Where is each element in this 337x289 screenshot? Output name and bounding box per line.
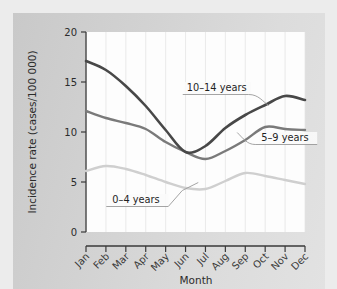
chart-svg: 05101520 JanFebMarAprMayJunJulAugSepOctN… [0, 0, 337, 289]
callout-label-5-9 years: 5–9 years [261, 132, 308, 143]
x-tick-label: Apr [131, 250, 152, 271]
x-tick-label: Jan [72, 251, 91, 270]
x-axis-ticks [86, 246, 305, 252]
x-tick-label: Aug [209, 251, 231, 273]
x-tick-label: Oct [251, 251, 271, 271]
y-tick-label: 5 [71, 177, 77, 188]
y-tick-label: 0 [71, 227, 77, 238]
x-axis-title: Month [180, 274, 213, 286]
x-tick-label: Jul [194, 251, 211, 268]
callout-label-10-14 years: 10–14 years [187, 82, 247, 93]
x-tick-label: Mar [110, 250, 132, 272]
y-axis-title: Incidence rate (cases/100 000) [26, 50, 38, 213]
y-tick-label: 20 [64, 27, 77, 38]
x-axis-tick-labels: JanFebMarAprMayJunJulAugSepOctNovDec [72, 250, 310, 273]
x-tick-label: Dec [289, 251, 310, 272]
chart-figure: 05101520 JanFebMarAprMayJunJulAugSepOctN… [0, 0, 337, 289]
x-tick-label: Jun [171, 251, 191, 271]
y-tick-label: 15 [64, 77, 77, 88]
y-axis-tick-labels: 05101520 [64, 27, 77, 238]
x-tick-label: Sep [230, 251, 251, 272]
x-tick-label: Nov [269, 251, 291, 273]
y-tick-label: 10 [64, 127, 77, 138]
x-tick-label: Feb [91, 251, 111, 271]
callout-label-0-4 years: 0–4 years [112, 194, 159, 205]
x-tick-label: May [149, 251, 171, 273]
